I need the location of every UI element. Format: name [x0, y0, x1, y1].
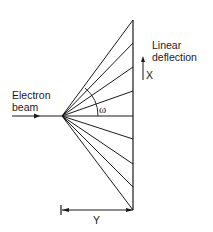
deflection-ray [62, 116, 133, 164]
x-arrow-up-icon [141, 56, 145, 62]
beam-label-line2: beam [12, 101, 51, 113]
x-label: X [146, 69, 153, 81]
beam-label-line1: Electron [12, 89, 51, 101]
deflection-ray [62, 116, 133, 187]
electron-beam-label: Electron beam [12, 89, 51, 113]
y-label: Y [93, 214, 100, 226]
beam-arrow-icon [34, 114, 40, 119]
deflection-ray [62, 116, 133, 210]
deflection-label-line2: deflection [152, 51, 197, 63]
omega-angle-label: ω [99, 103, 106, 115]
electron-deflection-diagram: Electron beam Linear deflection X Y ω [0, 0, 213, 232]
deflection-ray [62, 20, 133, 116]
linear-deflection-label: Linear deflection [152, 39, 197, 63]
diagram-canvas [0, 0, 213, 232]
y-arrow-left-icon [62, 208, 69, 212]
deflection-rays [62, 20, 133, 210]
deflection-ray [62, 43, 133, 116]
deflection-label-line1: Linear [152, 39, 197, 51]
deflection-ray [62, 116, 133, 139]
